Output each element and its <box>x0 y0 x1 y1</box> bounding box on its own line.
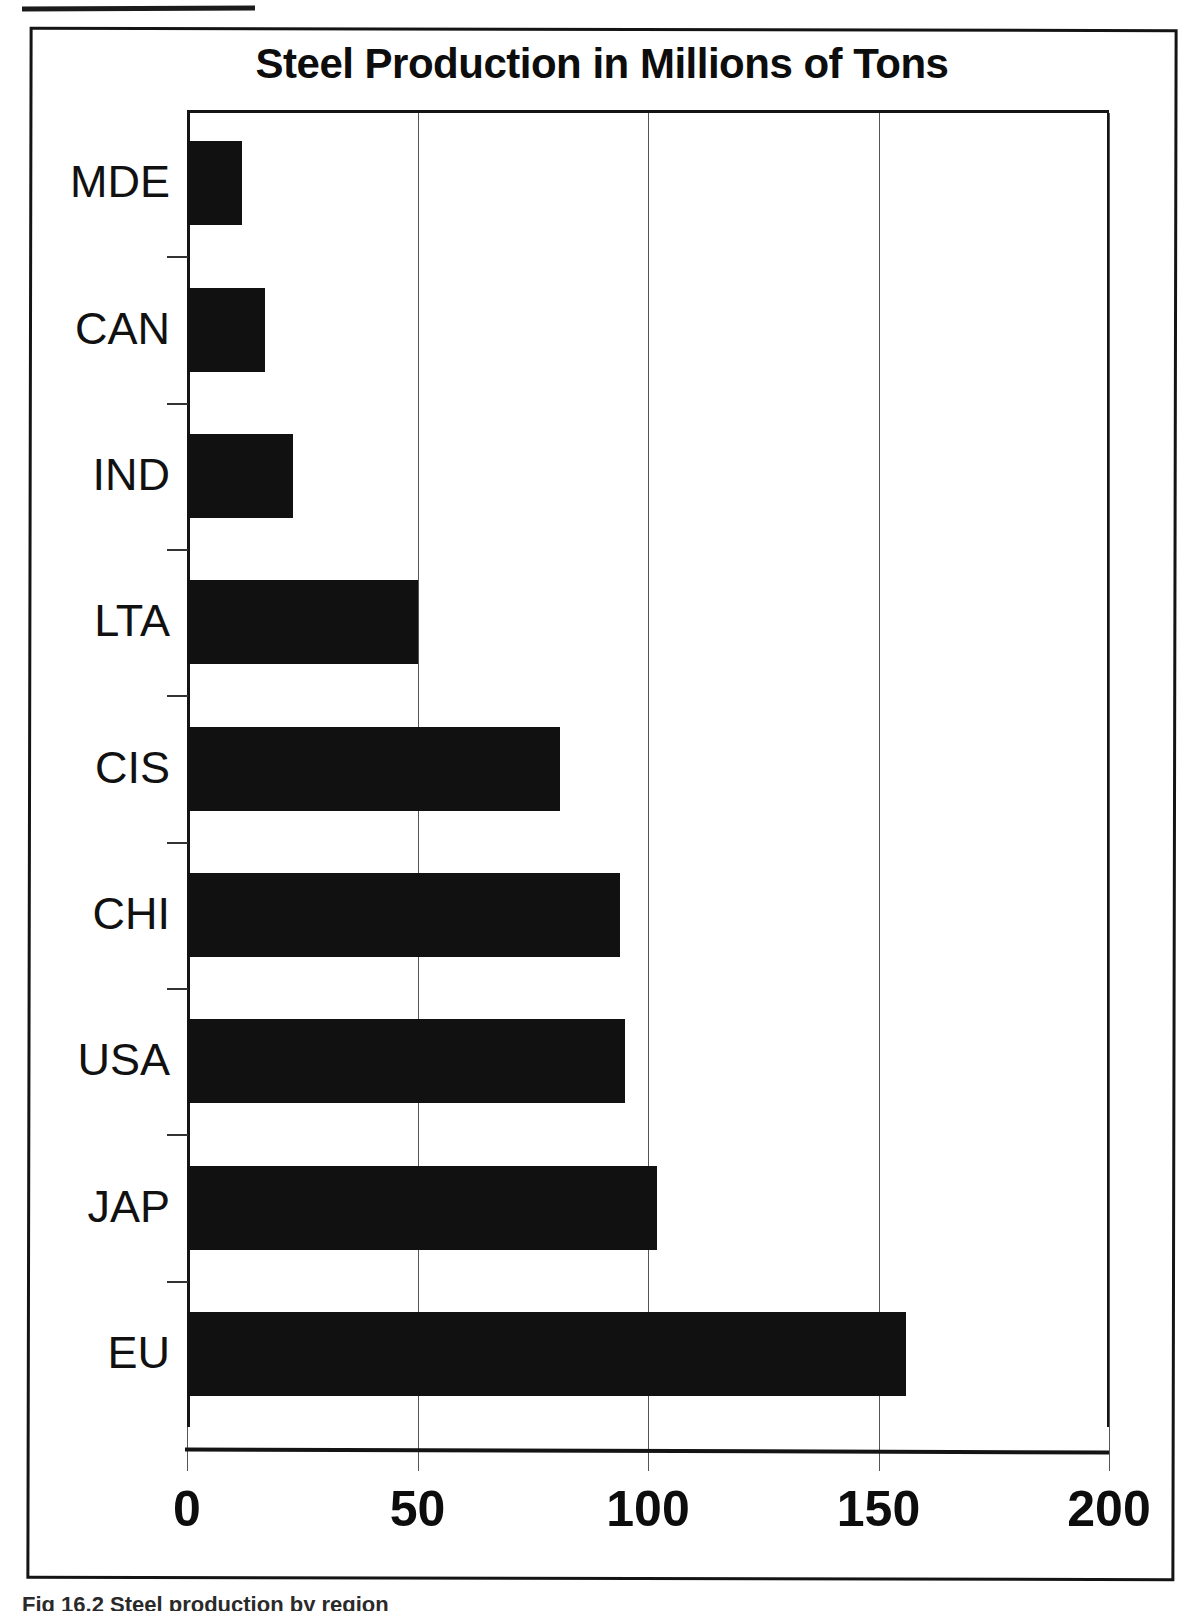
value-axis-label-100: 100 <box>578 1480 718 1538</box>
category-axis-tick <box>167 549 188 551</box>
gridline <box>1109 113 1110 1427</box>
bar <box>187 434 293 518</box>
bar <box>187 141 242 225</box>
value-axis-label-0: 0 <box>117 1480 257 1538</box>
bar <box>187 1312 906 1396</box>
category-axis-tick <box>167 1134 188 1136</box>
category-axis-tick <box>167 1281 188 1283</box>
bar <box>187 1019 625 1103</box>
category-axis-tick <box>167 256 188 258</box>
bar <box>187 1166 657 1250</box>
value-axis-label-50: 50 <box>348 1480 488 1538</box>
category-axis-tick <box>167 842 188 844</box>
value-axis-tick <box>1109 1427 1110 1471</box>
figure-caption: Fig 16.2 Steel production by region <box>22 1592 389 1611</box>
category-axis-tick <box>167 403 188 405</box>
bar <box>187 288 265 372</box>
bars-layer <box>187 110 1109 1427</box>
chart-title: Steel Production in Millions of Tons <box>28 40 1176 88</box>
category-axis-tick <box>167 988 188 990</box>
value-axis-label-150: 150 <box>809 1480 949 1538</box>
category-axis-tick <box>167 695 188 697</box>
page-top-rule <box>22 5 255 11</box>
bar <box>187 727 560 811</box>
bar <box>187 873 620 957</box>
bar <box>187 580 418 664</box>
value-axis-label-200: 200 <box>1039 1480 1179 1538</box>
